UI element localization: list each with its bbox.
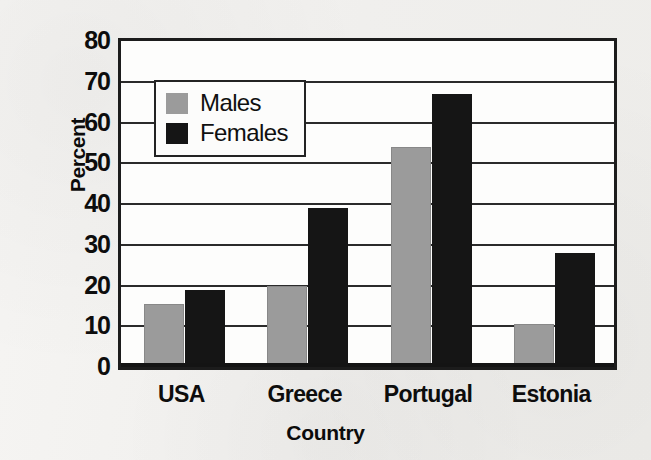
x-axis-baseline bbox=[121, 363, 614, 367]
x-tick-label-portugal: Portugal bbox=[358, 381, 498, 408]
females-swatch-icon bbox=[166, 123, 188, 144]
x-axis-tick-labels: USAGreecePortugalEstonia bbox=[118, 381, 617, 415]
legend-entry-males: Males bbox=[166, 88, 288, 118]
legend-label-males: Males bbox=[200, 91, 261, 115]
x-tick-label-greece: Greece bbox=[235, 381, 375, 408]
bar-usa-males bbox=[144, 304, 184, 367]
bar-greece-males bbox=[267, 286, 307, 368]
legend-entry-females: Females bbox=[166, 118, 288, 148]
y-tick-label-70: 70 bbox=[54, 69, 110, 94]
bar-estonia-males bbox=[514, 324, 554, 367]
y-tick-label-50: 50 bbox=[54, 150, 110, 175]
legend-label-females: Females bbox=[200, 121, 288, 145]
bar-portugal-females bbox=[432, 94, 472, 367]
bar-portugal-males bbox=[391, 147, 431, 367]
x-tick-label-usa: USA bbox=[112, 381, 252, 408]
plot-area: Males Females bbox=[118, 38, 617, 370]
x-axis-title: Country bbox=[0, 421, 651, 445]
y-tick-label-30: 30 bbox=[54, 232, 110, 257]
bar-estonia-females bbox=[555, 253, 595, 367]
males-swatch-icon bbox=[166, 93, 188, 114]
y-tick-label-60: 60 bbox=[54, 110, 110, 135]
legend: Males Females bbox=[154, 80, 306, 157]
y-tick-label-80: 80 bbox=[54, 28, 110, 53]
y-axis-tick-labels: 80706050403020100 bbox=[48, 0, 110, 460]
y-tick-label-20: 20 bbox=[54, 273, 110, 298]
bar-chart-figure: Percent 80706050403020100 Males Females … bbox=[0, 0, 651, 460]
y-tick-label-0: 0 bbox=[54, 354, 110, 379]
bar-greece-females bbox=[308, 208, 348, 367]
y-tick-label-10: 10 bbox=[54, 313, 110, 338]
y-tick-label-40: 40 bbox=[54, 191, 110, 216]
x-tick-label-estonia: Estonia bbox=[481, 381, 621, 408]
bar-usa-females bbox=[185, 290, 225, 367]
